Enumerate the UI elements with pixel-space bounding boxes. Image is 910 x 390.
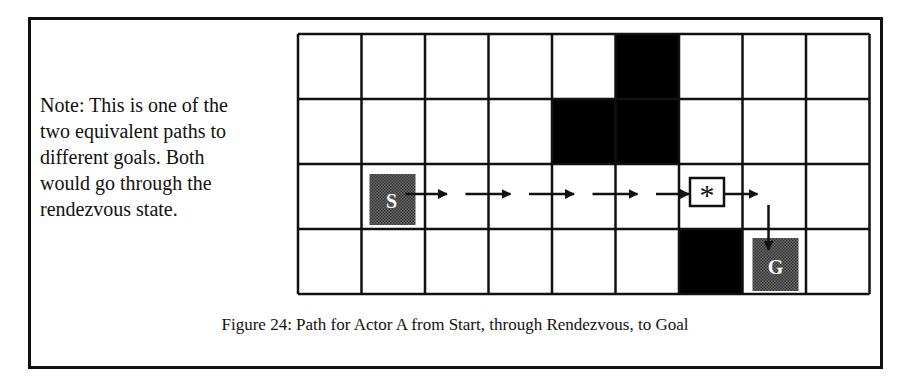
start-label: S [386, 190, 397, 212]
rendezvous-label: * [700, 178, 715, 211]
goal-label: G [768, 256, 784, 278]
obstacle-cell [552, 99, 616, 164]
obstacle-cell [679, 229, 743, 294]
obstacle-cell [616, 34, 680, 99]
obstacle-cell [616, 99, 680, 164]
figure-caption: Figure 24: Path for Actor A from Start, … [0, 315, 910, 335]
